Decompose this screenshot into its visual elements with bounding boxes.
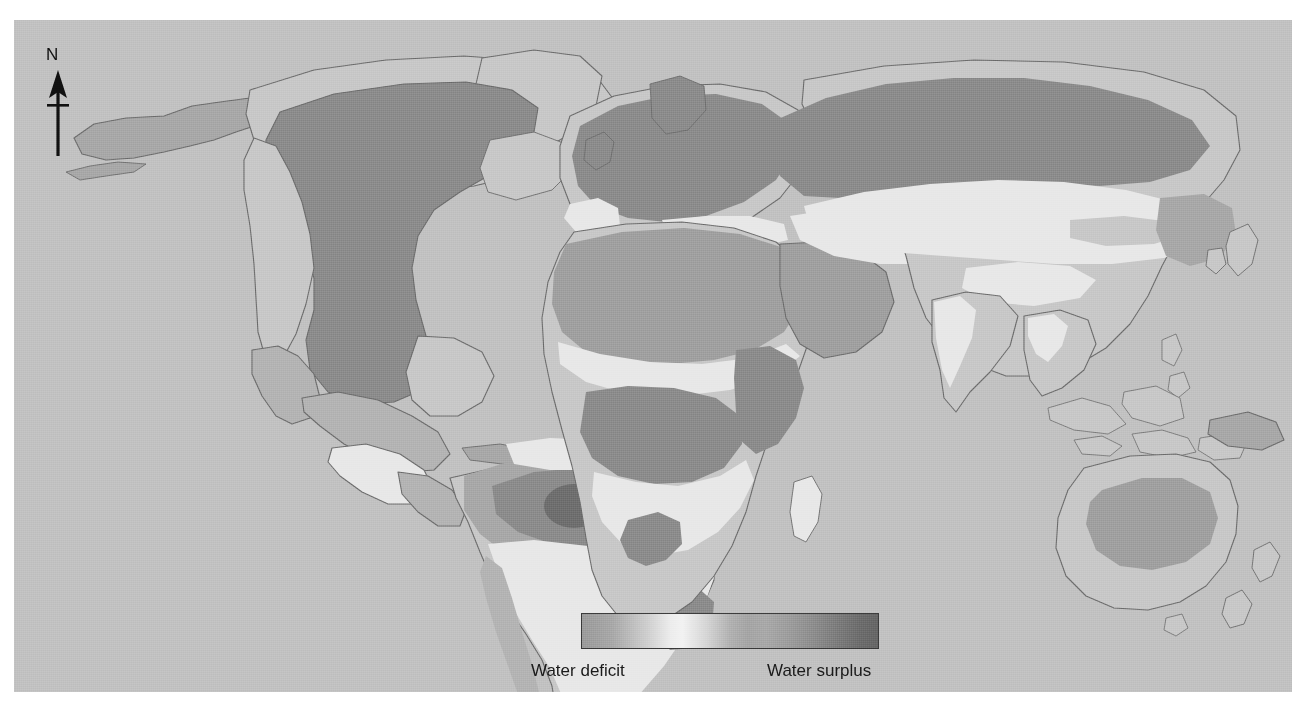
north-arrow: N — [38, 48, 84, 158]
legend-gradient-swatch — [581, 613, 879, 649]
legend-label-row: Water deficit Water surplus — [531, 661, 951, 685]
map-legend: Water deficit Water surplus — [581, 613, 881, 685]
legend-label-water-deficit: Water deficit — [531, 661, 625, 681]
world-map-svg — [14, 20, 1292, 692]
world-map-plate: N Water deficit Water surplus — [14, 20, 1292, 692]
legend-label-water-surplus: Water surplus — [767, 661, 871, 681]
north-arrow-icon — [38, 66, 84, 158]
north-arrow-label: N — [46, 46, 58, 63]
figure-root: N Water deficit Water surplus — [0, 0, 1311, 715]
